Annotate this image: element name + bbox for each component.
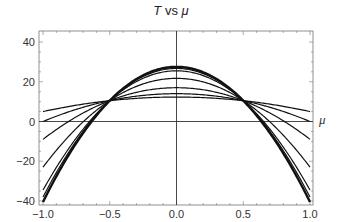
plot: −1.0−0.50.00.51.0−40−2002040 μ <box>0 0 342 222</box>
tick-labels: −1.0−0.50.00.51.0−40−2002040 <box>16 36 317 220</box>
x-tick-label: −1.0 <box>32 208 54 220</box>
x-tick-label: −0.5 <box>99 208 121 220</box>
x-axis-label: μ <box>318 112 326 127</box>
y-tick-label: 0 <box>29 116 35 128</box>
y-tick-label: 40 <box>23 36 35 48</box>
x-tick-label: 1.0 <box>302 208 317 220</box>
plot-frame <box>39 31 313 205</box>
axis-ticks <box>39 31 313 205</box>
zero-axes <box>39 31 313 205</box>
x-tick-label: 0.0 <box>169 208 184 220</box>
y-tick-label: −20 <box>16 155 35 167</box>
x-tick-label: 0.5 <box>236 208 251 220</box>
y-tick-label: 20 <box>23 76 35 88</box>
y-tick-label: −40 <box>16 195 35 207</box>
